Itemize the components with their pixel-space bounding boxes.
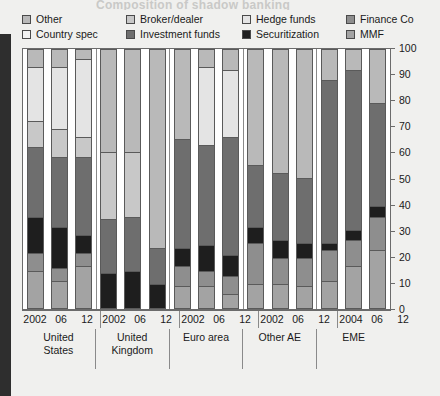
- legend-label: Finance Co: [360, 14, 414, 25]
- y-tick-label: 70: [399, 121, 411, 132]
- bar-segment-investment-funds: [346, 71, 361, 231]
- legend-swatch-securitization: [242, 30, 251, 39]
- bar-segment-broker-dealer: [101, 153, 116, 220]
- stacked-bar[interactable]: [198, 49, 215, 309]
- bar-segment-finance-co: [273, 259, 288, 285]
- stacked-bar[interactable]: [27, 49, 44, 309]
- x-tick-label: 06: [48, 314, 74, 325]
- legend-item-mmf[interactable]: MMF: [346, 29, 434, 40]
- bar-segment-investment-funds: [28, 148, 43, 218]
- stacked-bar[interactable]: [222, 49, 239, 309]
- y-tick-mark: [390, 231, 395, 232]
- group-label-line: EME: [342, 331, 365, 344]
- legend-label: Investment funds: [140, 29, 220, 40]
- bar-segment-other: [297, 50, 312, 179]
- bar-segment-investment-funds: [101, 220, 116, 274]
- legend-swatch-investment-funds: [126, 30, 135, 39]
- x-label-group: 20040612: [337, 311, 416, 328]
- bar-segment-mmf: [248, 285, 263, 308]
- legend-item-broker-dealer[interactable]: Broker/dealer: [126, 14, 242, 25]
- y-tick-mark: [390, 283, 395, 284]
- bar-segment-securitization: [150, 285, 165, 308]
- x-tick-label: 06: [206, 314, 232, 325]
- y-tick-mark: [390, 257, 395, 258]
- stacked-bar[interactable]: [272, 49, 289, 309]
- bar-segment-securitization: [223, 256, 238, 277]
- y-tick-mark: [390, 74, 395, 75]
- bar-segment-other: [370, 50, 385, 104]
- plot-area: [22, 48, 390, 310]
- stacked-bar[interactable]: [149, 49, 166, 309]
- bar-segment-finance-co: [28, 254, 43, 272]
- bar-segment-finance-co: [322, 251, 337, 282]
- bar-segment-hedge-funds: [28, 68, 43, 122]
- group-label-line: United: [117, 331, 147, 344]
- bar-segment-investment-funds: [76, 158, 91, 235]
- bar-segment-other: [175, 50, 190, 140]
- bar-segment-other: [150, 50, 165, 249]
- bar-segment-other: [76, 50, 91, 60]
- legend-swatch-hedge-funds: [242, 15, 251, 24]
- bar-segment-investment-funds: [248, 166, 263, 228]
- x-tick-label: 2002: [101, 314, 127, 325]
- y-tick-mark: [390, 100, 395, 101]
- stacked-bar[interactable]: [345, 49, 362, 309]
- bar-segment-finance-co: [297, 259, 312, 287]
- bar-segment-finance-co: [248, 244, 263, 285]
- legend-row: OtherBroker/dealerHedge fundsFinance Co: [22, 12, 434, 27]
- legend-item-securitization[interactable]: Securitization: [242, 29, 346, 40]
- x-label-group: 20020612: [179, 311, 258, 328]
- y-tick-label: 30: [399, 226, 411, 237]
- bar-segment-other: [125, 50, 140, 153]
- group-label-line: United: [43, 331, 73, 344]
- legend-item-investment-funds[interactable]: Investment funds: [126, 29, 242, 40]
- legend-item-hedge-funds[interactable]: Hedge funds: [242, 14, 346, 25]
- x-label-group: 20020612: [258, 311, 337, 328]
- bar-segment-finance-co: [76, 254, 91, 267]
- bar-segment-securitization: [346, 231, 361, 241]
- y-tick-mark: [390, 205, 395, 206]
- legend-item-finance-co[interactable]: Finance Co: [346, 14, 434, 25]
- bar-segment-other: [346, 50, 361, 71]
- stacked-bar[interactable]: [75, 49, 92, 309]
- bar-segment-finance-co: [223, 277, 238, 295]
- bar-segment-mmf: [297, 287, 312, 308]
- bar-segment-investment-funds: [322, 81, 337, 244]
- bar-segment-securitization: [273, 241, 288, 259]
- bar-segment-other: [223, 50, 238, 71]
- legend-item-other[interactable]: Other: [22, 14, 126, 25]
- stacked-bar[interactable]: [174, 49, 191, 309]
- legend-swatch-other: [22, 15, 31, 24]
- x-label-group: 20020612: [100, 311, 179, 328]
- stacked-bar[interactable]: [296, 49, 313, 309]
- y-tick-label: 100: [399, 43, 417, 54]
- bar-segment-other: [199, 50, 214, 68]
- bar-segment-investment-funds: [150, 249, 165, 285]
- stacked-bar[interactable]: [51, 49, 68, 309]
- bar-segment-broker-dealer: [125, 153, 140, 218]
- x-tick-label: 12: [74, 314, 100, 325]
- group-label-line: Kingdom: [111, 344, 152, 357]
- stacked-bar[interactable]: [100, 49, 117, 309]
- bar-segment-securitization: [101, 274, 116, 308]
- group-labels: UnitedStatesUnitedKingdomEuro areaOther …: [22, 329, 390, 369]
- bar-segment-hedge-funds: [52, 68, 67, 130]
- x-tick-label: 12: [311, 314, 337, 325]
- legend-swatch-broker-dealer: [126, 15, 135, 24]
- stacked-bar[interactable]: [247, 49, 264, 309]
- y-tick-label: 80: [399, 95, 411, 106]
- left-gutter-top-cap: [0, 0, 11, 34]
- legend-item-country-spec[interactable]: Country spec: [22, 29, 126, 40]
- bar-segment-investment-funds: [297, 179, 312, 244]
- stacked-bar[interactable]: [321, 49, 338, 309]
- stacked-bar[interactable]: [369, 49, 386, 309]
- bar-segment-mmf: [370, 251, 385, 308]
- y-tick-mark: [390, 126, 395, 127]
- x-tick-label: 2004: [338, 314, 364, 325]
- bar-segment-mmf: [76, 267, 91, 308]
- bar-segment-finance-co: [346, 241, 361, 267]
- stacked-bar[interactable]: [124, 49, 141, 309]
- bar-segment-securitization: [52, 228, 67, 269]
- bar-segment-mmf: [52, 282, 67, 308]
- group-label-eme: EME: [316, 329, 390, 369]
